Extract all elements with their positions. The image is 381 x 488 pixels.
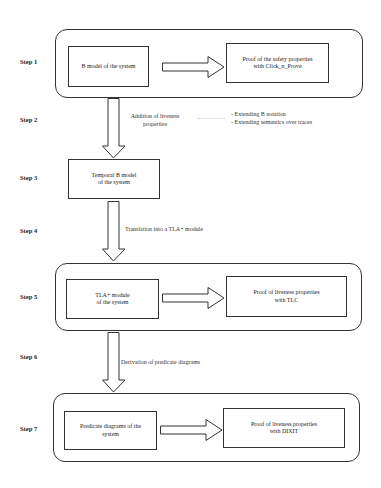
tla-module-line1: TLA+ module (95, 292, 130, 300)
note-extending-b-notation: - Extending B notation (231, 111, 312, 119)
addition-liveness-line1: Addition of liveness (122, 113, 188, 121)
dixit-proof-line1: Proof of liveness properties (251, 421, 317, 429)
dixit-proof-line2: with DIXIT (270, 428, 299, 436)
step-2-label: Step 2 (20, 116, 37, 123)
safety-proof-box: Proof of the safety properties with Clic… (226, 43, 329, 83)
translation-label: Translation into a TLA+ module (125, 226, 203, 234)
dixit-proof-box: Proof of liveness properties with DIXIT (223, 408, 345, 448)
tlc-proof-line1: Proof of liveness properties (253, 289, 319, 297)
derivation-label: Derivation of predicate diagrams (121, 359, 200, 367)
step-3-label: Step 3 (20, 174, 37, 181)
step-5-label: Step 5 (20, 293, 37, 300)
down-arrow-icon (102, 201, 126, 263)
tla-module-line2: of the system (97, 299, 129, 307)
right-arrow-icon (162, 56, 226, 78)
predicate-diagrams-line1: Predicate diagrams of the (80, 423, 141, 431)
b-model-box: B model of the system (68, 46, 149, 87)
step-1-label: Step 1 (20, 58, 37, 65)
step-4-label: Step 4 (20, 227, 37, 234)
addition-liveness-line2: properties (122, 121, 188, 129)
step-7-label: Step 7 (20, 425, 37, 432)
b-model-label: B model of the system (82, 63, 136, 71)
temporal-b-model-line1: Temporal B model (92, 172, 137, 180)
temporal-b-model-box: Temporal B model of the system (68, 159, 160, 199)
safety-proof-line2: with Click_n_Prove (253, 63, 301, 71)
addition-liveness-label: Addition of liveness properties (122, 113, 188, 128)
temporal-b-model-line2: of the system (98, 179, 130, 187)
predicate-diagrams-box: Predicate diagrams of the system (64, 411, 157, 450)
tlc-proof-box: Proof of liveness properties with TLC (226, 276, 347, 317)
right-arrow-icon (160, 419, 224, 441)
down-arrow-icon (102, 98, 126, 160)
safety-proof-line1: Proof of the safety properties (243, 56, 313, 64)
tla-module-box: TLA+ module of the system (66, 279, 159, 319)
right-arrow-icon (162, 287, 226, 309)
step-6-label: Step 6 (20, 353, 37, 360)
faint-connector-line (197, 118, 225, 119)
extension-notes: - Extending B notation - Extending seman… (231, 111, 312, 126)
tlc-proof-line2: with TLC (275, 297, 298, 305)
predicate-diagrams-line2: system (102, 431, 119, 439)
note-extending-semantics: - Extending semantics over traces (231, 119, 312, 127)
